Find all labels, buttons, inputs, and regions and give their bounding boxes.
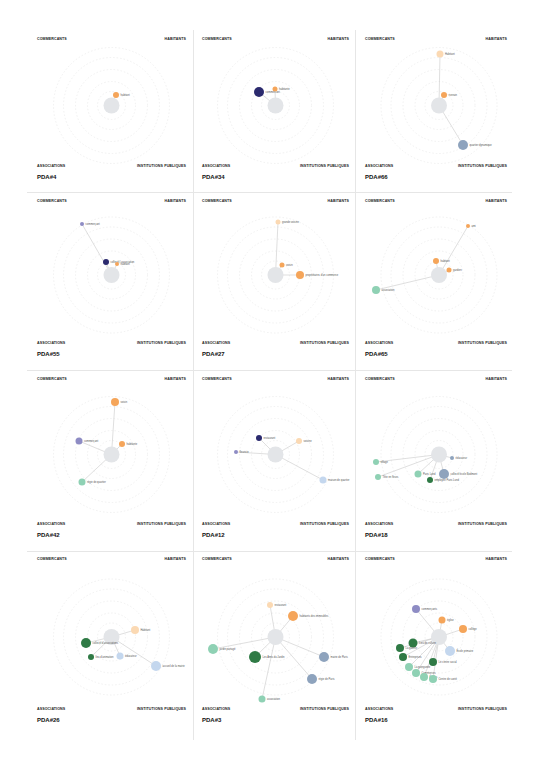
actor-node [249,651,261,663]
network-diagram: commerçantséglisecollègeLieu de cultureL… [361,553,511,733]
actor-node [88,654,94,660]
actor-label: mairie de Paris [331,655,349,659]
actor-label: commerçants [422,607,438,611]
center-node [268,447,284,463]
actor-label: Habitant [445,52,455,56]
actor-label: commerçant [84,439,99,443]
actor-label: association [382,288,396,292]
actor-node [115,262,119,266]
actor-label: voisin [121,400,128,404]
actor-label: quartier dynamique [470,143,493,147]
actor-node [372,286,380,294]
actor-node [234,450,238,454]
network-diagram: Habitantriverainquartier dynamique [361,33,511,190]
actor-label: habitant [441,259,451,263]
network-panel: COMMERCANTSHABITANTSASSOCIATIONSINSTITUT… [198,553,353,733]
column-divider [355,30,356,740]
center-node [104,98,120,114]
actor-node [439,469,449,479]
row-divider [27,192,512,193]
actor-node [296,438,302,444]
actor-label: Habitant [141,628,151,632]
actor-node [259,696,266,703]
network-panel: COMMERCANTSHABITANTSASSOCIATIONSINSTITUT… [33,195,190,367]
actor-node [119,441,125,447]
center-node [431,447,447,463]
actor-label: gardien [453,268,462,272]
actor-label: lieu d'animation [96,655,114,659]
actor-label: Les Amis du Jardin [263,655,285,659]
actor-label: riverain [449,93,458,97]
actor-node [276,220,281,225]
actor-node [437,51,444,58]
actor-label: habitant [121,262,131,266]
actor-node [254,87,264,97]
network-panel: COMMERCANTSHABITANTSASSOCIATIONSINSTITUT… [361,195,511,367]
network-diagram: Habitantcollectif d'associationslieu d'a… [33,553,190,733]
network-panel: COMMERCANTSHABITANTSASSOCIATIONSINSTITUT… [198,195,353,367]
actor-label: collectif école Bodmont [451,472,478,476]
network-diagram: amihabitantgardienassociation [361,195,511,367]
center-node [431,267,447,283]
actor-node [399,653,407,661]
actor-node [405,663,413,671]
actor-node [256,435,262,441]
actor-node [373,459,379,465]
actor-label: habitants des immeubles [300,614,329,618]
actor-node [151,661,161,671]
network-panel: COMMERCANTSHABITANTSASSOCIATIONSINSTITUT… [33,373,190,548]
actor-node [441,92,447,98]
actor-node [459,625,467,633]
network-panel: COMMERCANTSHABITANTSASSOCIATIONSINSTITUT… [198,373,353,548]
actor-node [111,398,119,406]
actor-node [420,673,428,681]
actor-label: Entreprises [409,655,423,659]
row-divider [27,370,512,371]
network-panel: COMMERCANTSHABITANTSASSOCIATIONSINSTITUT… [361,373,511,548]
actor-label: Lieu de culture [419,641,437,645]
actor-node [320,477,327,484]
row-divider [27,551,512,552]
actor-label: restaurant [264,436,276,440]
actor-node [81,638,91,648]
actor-label: propriétaires d'un commerce [306,273,339,277]
actor-label: voisine [304,439,313,443]
actor-node [433,258,439,264]
network-diagram: voisincommerçanthabitanterégie de quarti… [33,373,190,548]
network-diagram: commerçantcollectif / associationhabitan… [33,195,190,367]
actor-label: régie de quartier [87,480,106,484]
actor-node [288,611,298,621]
actor-label: église [447,618,454,622]
actor-label: habitant [121,93,131,97]
actor-node [79,479,86,486]
actor-node [296,271,304,279]
actor-node [412,669,420,677]
actor-node [412,605,420,613]
network-diagram: éducateurvillageTête en fleursParis Lund… [361,373,511,548]
actor-node [267,602,273,608]
actor-label: La guinguette [415,665,431,669]
actor-node [445,646,455,656]
actor-label: village [381,460,389,464]
center-node [431,98,447,114]
network-panel: COMMERCANTSHABITANTSASSOCIATIONSINSTITUT… [361,33,511,190]
actor-label: La galerie [406,646,418,650]
actor-node [307,674,317,684]
network-panel: COMMERCANTSHABITANTSASSOCIATIONSINSTITUT… [361,553,511,733]
actor-label: ami [472,224,477,228]
actor-node [103,259,109,265]
actor-label: grande voisine [282,220,299,224]
actor-node [429,675,437,683]
actor-node [439,617,446,624]
actor-node [415,471,422,478]
actor-node [131,626,139,634]
network-diagram: habitant [33,33,190,190]
column-divider [193,30,194,740]
actor-node [273,87,278,92]
actor-node [447,268,452,273]
actor-label: restaurant [275,603,287,607]
actor-label: École primaire [457,648,474,653]
actor-label: collectif d'associations [93,641,119,645]
actor-label: jardin partagé [219,647,236,651]
actor-node [466,224,470,228]
